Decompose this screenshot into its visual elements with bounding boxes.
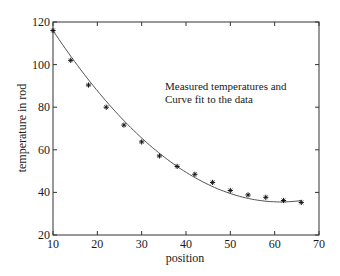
data-point-marker (210, 180, 215, 185)
chart: 10203040506070 20406080100120 position t… (0, 0, 340, 276)
x-axis-label: position (166, 251, 205, 265)
data-point-marker (121, 122, 126, 127)
y-tick-label: 60 (38, 143, 50, 157)
y-axis-label: temperature in rod (15, 84, 29, 173)
data-point-marker (281, 198, 286, 203)
x-tick-label: 70 (313, 237, 325, 251)
x-tick-label: 40 (180, 237, 192, 251)
y-tick-label: 80 (38, 100, 50, 114)
data-point-marker (50, 28, 55, 33)
data-point-marker (175, 164, 180, 169)
x-tick-label: 20 (91, 237, 103, 251)
data-point-marker (299, 200, 304, 205)
data-point-marker (86, 82, 91, 87)
annotation-line-2: Curve fit to the data (165, 93, 253, 105)
data-point-marker (104, 105, 109, 110)
data-point-marker (245, 192, 250, 197)
y-tick-label: 40 (38, 185, 50, 199)
x-tick-label: 50 (224, 237, 236, 251)
data-point-marker (68, 58, 73, 63)
x-tick-label: 30 (136, 237, 148, 251)
data-point-marker (157, 153, 162, 158)
data-point-marker (139, 139, 144, 144)
data-point-marker (192, 172, 197, 177)
y-tick-label: 20 (38, 228, 50, 242)
annotation-line-1: Measured temperatures and (165, 80, 287, 92)
data-point-marker (228, 188, 233, 193)
y-tick-label: 100 (32, 58, 50, 72)
x-tick-label: 60 (269, 237, 281, 251)
y-tick-label: 120 (32, 15, 50, 29)
data-point-marker (263, 195, 268, 200)
